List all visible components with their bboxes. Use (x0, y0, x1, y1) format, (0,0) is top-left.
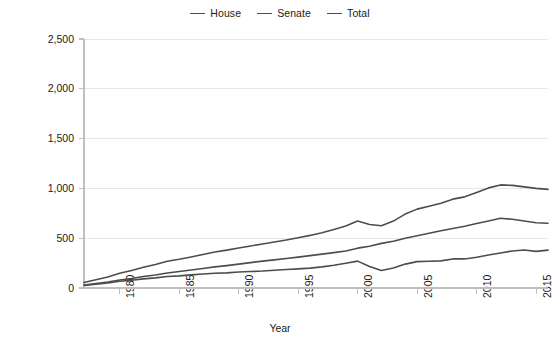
plot-area (0, 0, 560, 351)
series-line-house (84, 218, 548, 285)
line-chart: House Senate Total Millions of Nominal D… (0, 0, 560, 351)
